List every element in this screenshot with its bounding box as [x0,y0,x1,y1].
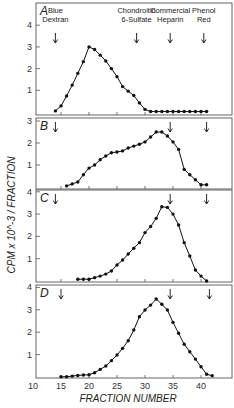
data-point [121,149,124,152]
data-point [104,364,107,367]
data-point [166,308,169,311]
down-arrow-icon [202,33,206,43]
data-point [160,110,163,113]
data-point [76,374,79,377]
panel-frame [36,190,232,282]
data-point [194,268,197,271]
data-line [55,47,206,112]
down-arrow-icon [204,122,208,132]
data-point [93,371,96,374]
y-tick-label: 1 [27,85,32,95]
data-point [65,184,68,187]
data-point [183,168,186,171]
marker-label: Heparin [157,15,183,24]
down-arrow-icon [207,289,211,299]
panel-label: C [40,191,49,205]
data-point [132,94,135,97]
data-point [194,110,197,113]
x-tick-label: 10 [28,381,38,391]
down-arrow-icon [168,122,172,132]
data-point [183,110,186,113]
data-point [121,347,124,350]
data-point [71,83,74,86]
data-point [160,205,163,208]
data-point [87,45,90,48]
x-tick-label: 25 [112,381,122,391]
data-point [59,104,62,107]
data-point [177,223,180,226]
data-point [121,85,124,88]
data-point [59,375,62,378]
y-tick-label: 3 [27,305,32,315]
data-point [155,217,158,220]
y-tick-label: 1 [27,254,32,264]
data-point [194,178,197,181]
data-line [67,132,207,186]
y-tick-label: 4 [27,20,32,30]
data-point [87,278,90,281]
data-point [132,328,135,331]
data-point [93,48,96,51]
data-point [127,89,130,92]
data-point [166,134,169,137]
y-tick-label: 4 [27,187,32,197]
data-point [188,254,191,257]
panel-c: 1234C [27,187,232,283]
panel-label: B [40,119,48,133]
y-tick-label: 4 [27,282,32,292]
x-tick-label: 30 [140,381,150,391]
data-point [205,110,208,113]
panels: 1234A123B1234C1234DBlueDextranChondroiti… [27,3,232,378]
data-point [110,67,113,70]
y-tick-label: 2 [27,64,32,74]
data-point [104,272,107,275]
data-point [65,375,68,378]
data-point [199,183,202,186]
data-point [199,110,202,113]
data-point [177,332,180,335]
data-point [183,241,186,244]
data-point [115,353,118,356]
panel-b: 123B [27,116,232,189]
y-tick-label: 2 [27,231,32,241]
data-point [188,110,191,113]
data-point [87,166,90,169]
down-arrow-icon [204,194,208,204]
marker-label: Dextran [42,15,68,24]
data-point [138,143,141,146]
data-point [160,130,163,133]
fraction-profile-figure: CPM x 10^-3 / FRACTION FRACTION NUMBER 1… [0,0,234,408]
down-arrow-icon [168,33,172,43]
data-point [115,75,118,78]
data-point [104,59,107,62]
data-point [155,297,158,300]
data-point [71,182,74,185]
data-point [171,110,174,113]
data-point [110,359,113,362]
data-point [138,315,141,318]
down-arrow-icon [53,122,57,132]
data-point [76,180,79,183]
data-point [143,231,146,234]
data-point [149,225,152,228]
y-tick-label: 3 [27,116,32,126]
marker-label: Blue [48,6,63,15]
data-point [160,303,163,306]
data-point [115,150,118,153]
x-tick-label: 40 [196,381,206,391]
data-point [99,274,102,277]
data-point [127,146,130,149]
panel-label: D [40,286,49,300]
data-point [65,94,68,97]
panel-d: 1234D [27,282,232,378]
y-tick-label: 2 [27,138,32,148]
data-point [76,72,79,75]
data-point [76,278,79,281]
data-point [99,158,102,161]
down-arrow-icon [134,33,138,43]
data-point [155,130,158,133]
data-point [93,163,96,166]
data-point [143,108,146,111]
y-tick-label: 1 [27,160,32,170]
x-axis-title: FRACTION NUMBER [79,393,176,404]
